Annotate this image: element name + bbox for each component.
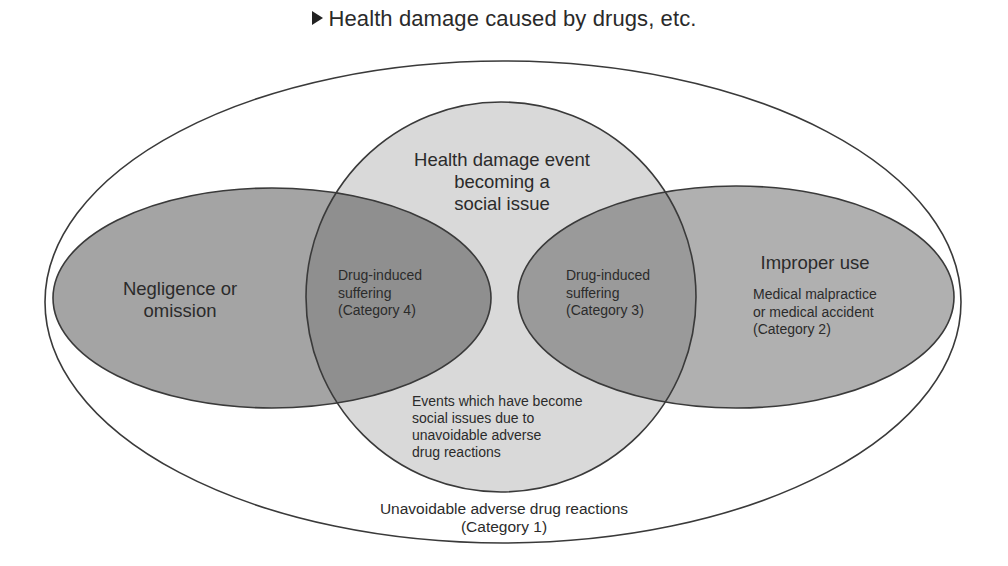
left-overlap-line1: Drug-induced <box>338 267 478 285</box>
left-overlap-line3: (Category 4) <box>338 302 478 320</box>
left-overlap-line2: suffering <box>338 285 478 303</box>
left-label-line1: Negligence or <box>100 278 260 300</box>
outer-label-line2: (Category 1) <box>330 518 678 536</box>
center-bottom-line2: social issues due to <box>412 410 612 427</box>
right-sub-line3: (Category 2) <box>753 321 923 339</box>
right-sub-line2: or medical accident <box>753 304 923 322</box>
right-overlap-line2: suffering <box>566 285 706 303</box>
outer-ellipse-label: Unavoidable adverse drug reactions (Cate… <box>330 500 678 536</box>
right-overlap-line3: (Category 3) <box>566 302 706 320</box>
right-overlap-label: Drug-induced suffering (Category 3) <box>566 267 706 320</box>
right-sub-line1: Medical malpractice <box>753 286 923 304</box>
center-label-line3: social issue <box>380 193 624 215</box>
right-overlap-line1: Drug-induced <box>566 267 706 285</box>
center-bottom-line1: Events which have become <box>412 393 612 410</box>
center-circle-label: Health damage event becoming a social is… <box>380 149 624 214</box>
left-ellipse-label: Negligence or omission <box>100 278 260 322</box>
right-ellipse-label: Improper use <box>740 252 890 274</box>
center-bottom-line4: drug reactions <box>412 444 612 461</box>
center-label-line1: Health damage event <box>380 149 624 171</box>
outer-label-line1: Unavoidable adverse drug reactions <box>330 500 678 518</box>
center-bottom-label: Events which have become social issues d… <box>412 393 612 461</box>
center-label-line2: becoming a <box>380 171 624 193</box>
left-label-line2: omission <box>100 300 260 322</box>
left-overlap-label: Drug-induced suffering (Category 4) <box>338 267 478 320</box>
right-ellipse-sublabel: Medical malpractice or medical accident … <box>753 286 923 339</box>
center-bottom-line3: unavoidable adverse <box>412 427 612 444</box>
